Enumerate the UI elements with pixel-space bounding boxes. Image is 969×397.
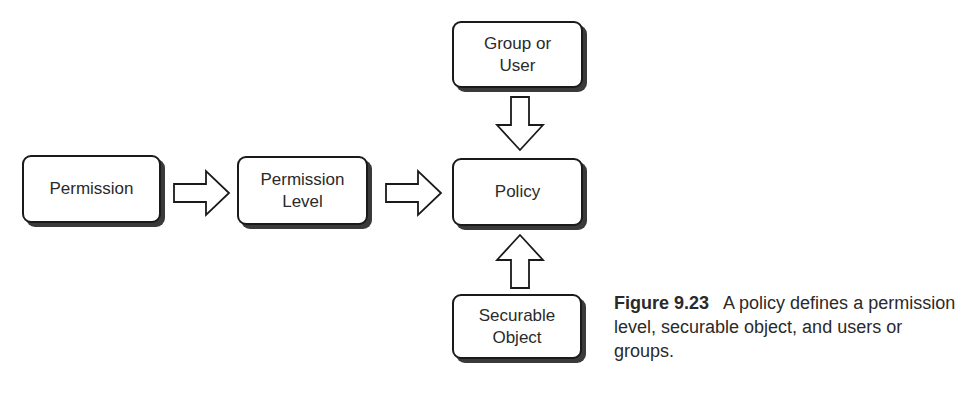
node-policy: Policy: [452, 158, 583, 226]
node-label: Policy: [495, 181, 540, 203]
figure-caption: Figure 9.23A policy defines a permission…: [614, 291, 964, 363]
arrow-right-icon: [384, 168, 444, 218]
node-label: Permission: [49, 178, 133, 200]
arrow-up-icon: [494, 232, 546, 290]
node-label: Group or: [484, 34, 551, 53]
arrow-right-icon: [172, 168, 232, 218]
node-label: Object: [492, 328, 541, 347]
node-label: Securable: [479, 306, 556, 325]
node-securable-object: SecurableObject: [452, 294, 582, 359]
node-group-or-user: Group orUser: [452, 21, 583, 88]
arrow-down-icon: [494, 95, 546, 153]
figure-label: Figure 9.23: [614, 293, 709, 313]
node-label: Permission: [260, 170, 344, 189]
node-permission: Permission: [22, 155, 161, 223]
node-permission-level: PermissionLevel: [237, 156, 368, 225]
node-label: Level: [282, 192, 323, 211]
node-label: User: [500, 56, 536, 75]
